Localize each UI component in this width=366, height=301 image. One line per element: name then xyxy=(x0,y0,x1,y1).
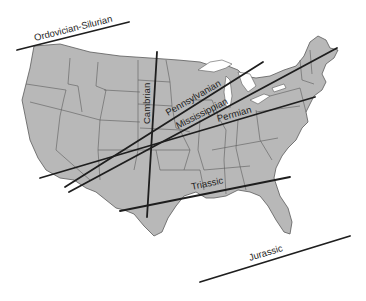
era-label: Cambrian xyxy=(141,83,152,124)
era-lines-layer: Ordovician-SilurianCambrianPennsylvanian… xyxy=(0,0,366,301)
boundary-line xyxy=(69,48,337,192)
era-line-mississippian: Mississippian xyxy=(69,48,337,192)
era-label: Triassic xyxy=(190,174,224,192)
era-label: Ordovician-Silurian xyxy=(33,13,114,43)
era-line-ordovician-silurian: Ordovician-Silurian xyxy=(17,13,129,50)
era-line-pennsylvanian: Pennsylvanian xyxy=(65,62,263,187)
era-label: Jurassic xyxy=(247,242,284,263)
paleo-boundary-map: Ordovician-SilurianCambrianPennsylvanian… xyxy=(0,0,366,301)
era-line-triassic: Triassic xyxy=(120,174,290,211)
boundary-line xyxy=(200,236,350,282)
era-line-jurassic: Jurassic xyxy=(200,236,350,282)
boundary-line xyxy=(65,62,263,187)
